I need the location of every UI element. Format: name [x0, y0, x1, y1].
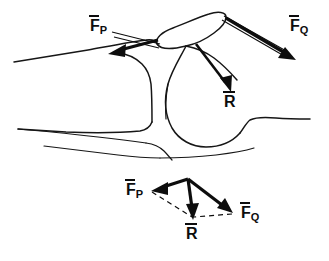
parallelogram-label-fp-base: F	[126, 182, 136, 198]
parallelogram-label-r: R	[186, 226, 198, 242]
parallelogram-label-fq-subscript: Q	[251, 212, 260, 223]
parallelogram-label-r-base: R	[186, 226, 198, 242]
femoral-condyle-lower-edge	[240, 117, 310, 133]
anatomy-label-r-base: R	[224, 94, 236, 110]
anatomy-label-fp-base: F	[90, 18, 100, 34]
parallelogram-fq-shaft	[188, 179, 222, 205]
patella-outline	[157, 12, 226, 48]
tibia-inferior-line	[44, 146, 160, 158]
anatomy-label-fq-subscript: Q	[300, 25, 309, 36]
parallelogram-dashed-fp-to-r	[152, 192, 192, 217]
parallelogram-label-fp: FP	[126, 182, 143, 198]
tibia-superior-line	[18, 129, 146, 143]
tibia-lower-contour	[160, 148, 254, 158]
parallelogram-r-arrowhead	[186, 203, 199, 220]
anatomy-label-fq: FQ	[290, 18, 308, 34]
parallelogram-dashed-fq-to-r	[194, 214, 232, 217]
anatomy-label-fp: FP	[90, 18, 107, 34]
anatomy-label-r: R	[224, 94, 236, 110]
femur-anterior-ridge	[118, 53, 152, 122]
r-arrowhead	[220, 75, 232, 92]
force-parallelogram-diagram	[151, 179, 233, 220]
parallelogram-label-fp-subscript: P	[136, 189, 143, 200]
anatomy-label-fp-subscript: P	[100, 25, 107, 36]
force-diagram-figure: FP FQ R FP FQ R	[0, 0, 329, 261]
parallelogram-fq-arrowhead	[217, 198, 233, 213]
fq-vector-shaft	[226, 18, 285, 53]
knee-joint-line-drawing	[14, 12, 310, 160]
patellar-tendon-lower-edge	[222, 20, 286, 57]
parallelogram-label-fq: FQ	[241, 205, 259, 221]
figure-canvas	[0, 0, 329, 261]
parallelogram-label-fq-base: F	[241, 205, 251, 221]
anatomy-label-fq-base: F	[290, 18, 300, 34]
